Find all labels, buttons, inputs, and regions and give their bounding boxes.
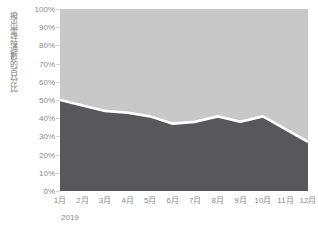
x-axis-tick: 3月 xyxy=(99,194,111,205)
gridline xyxy=(56,191,61,192)
y-axis-tick: 70% xyxy=(39,59,55,68)
stacked-area-chart: 撥出電話通數的百分比 100%90%80%70%60%50%40%30%20%1… xyxy=(0,0,318,241)
y-axis-tick: 30% xyxy=(39,132,55,141)
x-axis-tick: 5月 xyxy=(144,194,156,205)
x-axis-tick-labels: 1月2月3月4月5月6月7月8月9月10月11月12月 xyxy=(60,194,308,208)
x-axis-tick: 9月 xyxy=(234,194,246,205)
y-axis-tick-labels: 100%90%80%70%60%50%40%30%20%10%0% xyxy=(18,9,58,191)
y-axis-tick: 10% xyxy=(39,168,55,177)
x-axis-tick: 4月 xyxy=(121,194,133,205)
y-axis-tick: 100% xyxy=(35,5,55,14)
area-chart-svg xyxy=(60,9,308,191)
x-axis-tick: 12月 xyxy=(300,194,317,205)
plot-area xyxy=(60,9,308,191)
y-axis-tick: 80% xyxy=(39,41,55,50)
x-axis-tick: 6月 xyxy=(166,194,178,205)
y-axis-tick: 40% xyxy=(39,114,55,123)
x-axis-tick: 7月 xyxy=(189,194,201,205)
x-axis-tick: 8月 xyxy=(212,194,224,205)
x-axis-tick: 11月 xyxy=(277,194,293,205)
x-axis-caption: 2019 xyxy=(61,213,79,222)
y-axis-tick: 90% xyxy=(39,23,55,32)
y-axis-tick: 20% xyxy=(39,150,55,159)
x-axis-tick: 1月 xyxy=(54,194,66,205)
y-axis-tick: 50% xyxy=(39,96,55,105)
y-axis-title: 撥出電話通數的百分比 xyxy=(3,12,17,92)
y-axis-tick: 60% xyxy=(39,77,55,86)
x-axis-tick: 2月 xyxy=(76,194,88,205)
x-axis-tick: 10月 xyxy=(254,194,271,205)
